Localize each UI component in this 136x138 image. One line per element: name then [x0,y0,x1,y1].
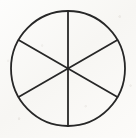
circle-diagram-svg: Circle divided into six equal sectors [0,0,136,138]
center-intersection-dot [66,67,69,70]
circle-sixths-figure: Circle divided into six equal sectors [0,0,136,138]
ink-strokes [11,11,125,126]
